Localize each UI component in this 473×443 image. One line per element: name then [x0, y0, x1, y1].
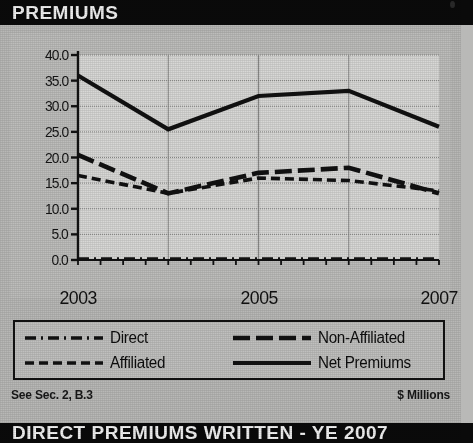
footnote-row: See Sec. 2, B.3 $ Millions — [0, 385, 461, 407]
x-axis-tick-label: 2007 — [420, 287, 457, 309]
x-axis-tick-label: 2005 — [240, 287, 277, 309]
legend-item-direct[interactable]: Direct — [25, 328, 150, 348]
x-axis-labels: 200320052007 — [10, 287, 451, 313]
footer-title-banner: DIRECT PREMIUMS WRITTEN - YE 2007 — [0, 423, 473, 443]
legend-item-affiliated[interactable]: Affiliated — [25, 353, 168, 373]
y-axis-labels: 40.035.030.025.020.015.010.05.00.0 — [0, 33, 68, 293]
y-axis-tick-label: 40.0 — [45, 46, 68, 63]
legend-label: Net Premiums — [318, 354, 411, 372]
dashed-line-icon — [25, 357, 103, 369]
y-axis-tick-label: 35.0 — [45, 72, 68, 89]
scan-speck — [450, 1, 455, 8]
page-title-banner: PREMIUMS — [0, 0, 473, 25]
legend-item-non-affiliated[interactable]: Non-Affiliated — [233, 328, 410, 348]
y-axis-tick-label: 5.0 — [52, 225, 68, 242]
y-axis-tick-label: 15.0 — [45, 174, 68, 191]
chart-legend: DirectNon-AffiliatedAffiliatedNet Premiu… — [13, 320, 445, 380]
plot-area — [10, 33, 451, 282]
y-axis-tick-label: 30.0 — [45, 97, 68, 114]
chart-container — [10, 33, 451, 298]
long-dash-line-icon — [233, 332, 311, 344]
legend-item-net-premiums[interactable]: Net Premiums — [233, 353, 416, 373]
y-axis-tick-label: 20.0 — [45, 149, 68, 166]
dash-dot-line-icon — [25, 332, 103, 344]
footer-title: DIRECT PREMIUMS WRITTEN - YE 2007 — [12, 423, 388, 443]
y-axis-tick-label: 25.0 — [45, 123, 68, 140]
legend-label: Affiliated — [110, 354, 165, 372]
solid-line-icon — [233, 357, 311, 369]
x-axis-tick-label: 2003 — [59, 287, 96, 309]
page-title: PREMIUMS — [12, 2, 118, 24]
legend-label: Direct — [110, 329, 148, 347]
line-chart-svg — [10, 33, 451, 282]
units-label: $ Millions — [397, 388, 450, 402]
y-axis-tick-label: 10.0 — [45, 200, 68, 217]
y-axis-tick-label: 0.0 — [52, 251, 68, 268]
source-reference: See Sec. 2, B.3 — [11, 388, 93, 402]
legend-label: Non-Affiliated — [318, 329, 405, 347]
